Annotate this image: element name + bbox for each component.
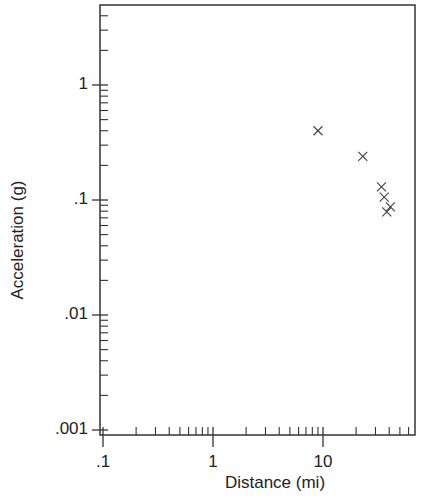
y-axis-label: Acceleration (g) [8, 170, 28, 310]
data-point-x-marker [380, 193, 389, 202]
y-tick-label: .001 [55, 419, 88, 439]
data-point-x-marker [358, 152, 367, 161]
y-tick-label: .1 [74, 189, 88, 209]
y-tick-label: 1 [79, 74, 88, 94]
data-point-x-marker [386, 202, 395, 211]
x-axis-label: Distance (mi) [225, 473, 325, 493]
data-point-x-marker [377, 182, 386, 191]
plot-frame [100, 5, 415, 435]
y-tick-label: .01 [64, 304, 88, 324]
x-tick-label: .1 [96, 452, 110, 472]
scatter-chart: Acceleration (g) Distance (mi) .001.01.1… [0, 0, 421, 499]
x-tick-label: 10 [314, 452, 333, 472]
x-tick-label: 1 [208, 452, 217, 472]
data-point-x-marker [382, 207, 391, 216]
data-point-x-marker [313, 126, 322, 135]
